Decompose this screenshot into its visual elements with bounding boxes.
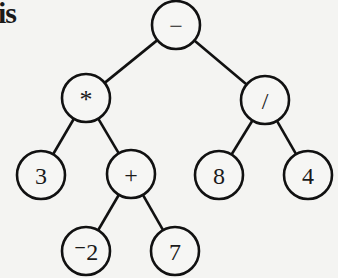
tree-node-mul: * [62,74,110,122]
tree-edges [53,40,296,230]
edge-mul-n3 [53,119,74,155]
tree-node-n3: 3 [17,151,65,199]
tree-node-div: / [241,76,289,124]
tree-node-n8: 8 [195,151,243,199]
node-label: 3 [35,163,47,189]
tree-node-neg2: ⁻2 [62,227,110,275]
tree-node-root: − [152,1,200,49]
node-label: 8 [213,163,225,189]
tree-node-n7: 7 [151,227,199,275]
tree-node-plus: + [107,150,155,198]
node-label: 4 [302,163,314,189]
edge-plus-n7 [143,195,163,230]
edge-root-mul [105,40,158,83]
edge-root-div [194,40,246,84]
edge-plus-neg2 [98,195,119,231]
edge-mul-plus [98,119,119,154]
node-label: − [169,13,183,39]
node-label: 7 [169,239,181,265]
node-label: / [262,88,269,114]
node-label: ⁻2 [74,239,99,265]
tree-node-n4: 4 [284,151,332,199]
edge-div-n4 [277,121,296,154]
edge-div-n8 [232,120,253,154]
node-label: + [124,162,138,188]
expression-tree-diagram: −*/3+84⁻27 [0,0,338,278]
node-label: * [80,85,93,114]
tree-nodes: −*/3+84⁻27 [17,1,332,275]
